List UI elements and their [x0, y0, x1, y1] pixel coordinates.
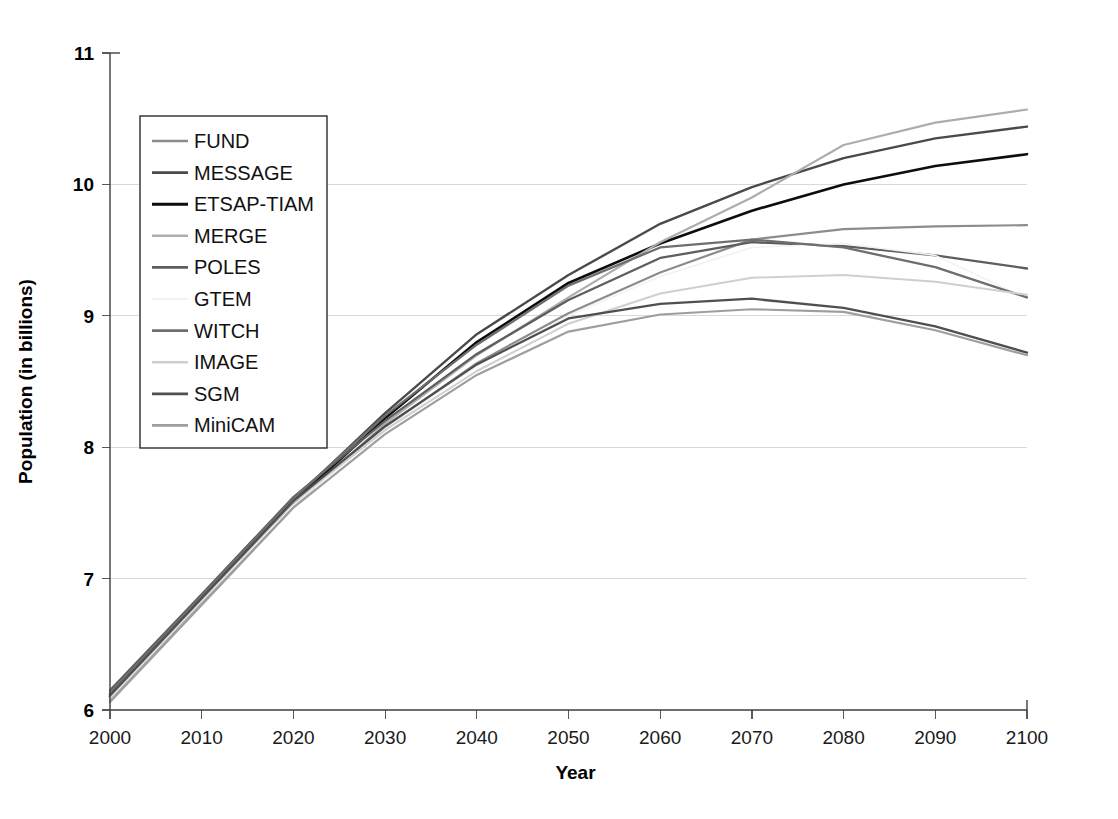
x-tick-label-2080: 2080 [822, 727, 864, 748]
population-projection-chart: 6789101120002010202020302040205020602070… [0, 0, 1118, 819]
legend-label: POLES [194, 256, 261, 278]
x-tick-label-2000: 2000 [89, 727, 131, 748]
x-tick-label-2040: 2040 [456, 727, 498, 748]
legend-label: ETSAP-TIAM [194, 193, 314, 215]
legend-label: IMAGE [194, 351, 258, 373]
x-tick-label-2050: 2050 [547, 727, 589, 748]
y-axis-title: Population (in billions) [15, 279, 36, 484]
x-tick-label-2020: 2020 [272, 727, 314, 748]
legend-label: MERGE [194, 225, 267, 247]
y-tick-label-8: 8 [83, 437, 94, 458]
x-tick-label-2070: 2070 [731, 727, 773, 748]
y-tick-label-11: 11 [74, 43, 95, 64]
legend-label: SGM [194, 383, 240, 405]
legend-label: MESSAGE [194, 162, 293, 184]
x-axis-title: Year [555, 762, 596, 783]
y-tick-label-10: 10 [73, 174, 94, 195]
legend-label: MiniCAM [194, 414, 275, 436]
x-tick-label-2030: 2030 [364, 727, 406, 748]
chart-canvas: 6789101120002010202020302040205020602070… [0, 0, 1118, 819]
legend-label: FUND [194, 130, 250, 152]
x-tick-label-2100: 2100 [1006, 727, 1048, 748]
legend-label: WITCH [194, 320, 260, 342]
x-tick-label-2010: 2010 [181, 727, 223, 748]
y-tick-label-7: 7 [83, 569, 94, 590]
legend: FUNDMESSAGEETSAP-TIAMMERGEPOLESGTEMWITCH… [140, 116, 327, 448]
y-tick-label-6: 6 [83, 700, 94, 721]
legend-label: GTEM [194, 288, 252, 310]
x-tick-label-2060: 2060 [639, 727, 681, 748]
x-tick-label-2090: 2090 [914, 727, 956, 748]
y-tick-label-9: 9 [83, 306, 94, 327]
